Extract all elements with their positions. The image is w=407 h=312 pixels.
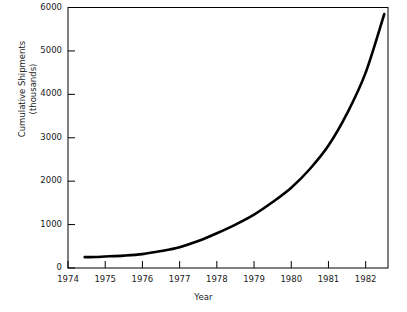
y-tick-label: 0 <box>14 262 62 272</box>
x-tick-label: 1975 <box>85 274 125 284</box>
y-tick-label: 6000 <box>14 2 62 12</box>
y-tick-label: 5000 <box>14 45 62 55</box>
x-tick-label: 1981 <box>308 274 348 284</box>
x-tick-label: 1979 <box>234 274 274 284</box>
y-tick-label: 3000 <box>14 132 62 142</box>
x-tick-label: 1974 <box>48 274 88 284</box>
x-tick-label: 1976 <box>122 274 162 284</box>
y-tick-label: 4000 <box>14 88 62 98</box>
x-tick-label: 1980 <box>271 274 311 284</box>
y-tick-label: 2000 <box>14 175 62 185</box>
y-tick-label: 1000 <box>14 219 62 229</box>
x-tick-label: 1978 <box>197 274 237 284</box>
x-axis-title: Year <box>0 292 407 302</box>
chart-figure: Cumulative Shipments (thousands) Year 01… <box>0 0 407 312</box>
x-tick-label: 1982 <box>346 274 386 284</box>
x-tick-label: 1977 <box>160 274 200 284</box>
